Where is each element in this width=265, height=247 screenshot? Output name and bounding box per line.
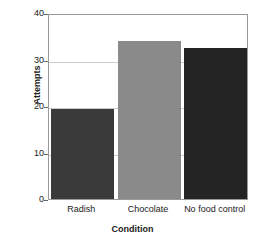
- bar: [51, 109, 114, 199]
- y-tick-mark: [44, 200, 48, 201]
- bar-chart-figure: Attempts 010203040 RadishChocolateNo foo…: [0, 0, 265, 247]
- x-tick-label: No food control: [165, 204, 265, 214]
- bar: [184, 48, 247, 199]
- y-tick-label: 20: [8, 102, 44, 111]
- bar: [118, 41, 181, 199]
- y-tick-label: 0: [8, 195, 44, 204]
- y-tick-label: 30: [8, 56, 44, 65]
- plot-area: [48, 14, 248, 200]
- y-tick-label: 10: [8, 149, 44, 158]
- x-axis-title: Condition: [0, 224, 265, 234]
- y-tick-label: 40: [8, 9, 44, 18]
